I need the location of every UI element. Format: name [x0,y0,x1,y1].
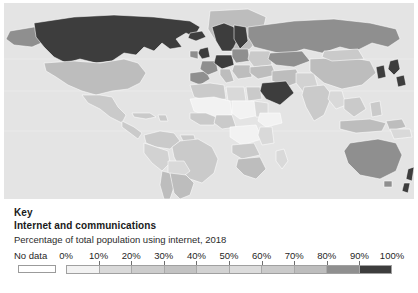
color-scale: 0%10%20%30%40%50%60%70%80%90%100% [66,250,392,282]
scale-segment [131,266,164,273]
no-data-label: No data [14,250,60,261]
legend: No data 0%10%20%30%40%50%60%70%80%90%100… [14,250,392,282]
no-data-swatch [18,265,56,273]
world-map[interactable] [4,3,414,199]
scale-segment [164,266,197,273]
scale-tick-label: 10% [89,250,108,261]
scale-tick-label: 50% [219,250,238,261]
figure-root: Key Internet and communications Percenta… [0,0,418,293]
key-subtitle: Percentage of total population using int… [14,234,226,245]
scale-tick-label: 40% [187,250,206,261]
scale-segment [261,266,294,273]
scale-tick-label: 90% [350,250,369,261]
scale-tick-label: 30% [154,250,173,261]
world-map-svg [4,3,414,199]
scale-segment [196,266,229,273]
scale-segment [326,266,359,273]
scale-segment [294,266,327,273]
scale-tick-label: 60% [252,250,271,261]
color-scale-bar [66,265,392,274]
scale-tick-label: 100% [380,250,404,261]
scale-tick-label: 80% [317,250,336,261]
scale-segment [229,266,262,273]
key-panel: Key Internet and communications Percenta… [4,202,394,286]
scale-segment [67,266,99,273]
scale-segment [99,266,132,273]
key-title: Internet and communications [14,220,156,231]
scale-tick-label: 20% [122,250,141,261]
scale-segment [359,266,392,273]
key-heading: Key [14,207,33,218]
scale-tick-label: 0% [59,250,73,261]
scale-tick-label: 70% [285,250,304,261]
